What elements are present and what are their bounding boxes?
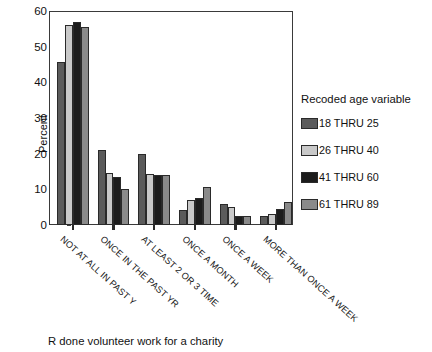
x-tick-mark [72, 225, 74, 230]
x-tick-mark [112, 225, 114, 230]
legend-item: 18 THRU 25 [301, 116, 429, 130]
legend-item: 61 THRU 89 [301, 197, 429, 211]
legend-swatch [301, 172, 318, 183]
legend-swatch [301, 199, 318, 210]
legend-label: 41 THRU 60 [319, 171, 379, 183]
legend-swatch [301, 145, 318, 156]
x-category-label: NOT AT ALL IN PAST Y [58, 234, 138, 307]
legend-label: 18 THRU 25 [319, 117, 379, 129]
x-tick-mark [275, 225, 277, 230]
x-category-label: ONCE IN THE PAST YR [99, 234, 181, 310]
x-category-label: AT LEAST 2 OR 3 TIME [139, 234, 220, 309]
legend-title: Recoded age variable [301, 93, 429, 105]
chart-canvas: Percent 0102030405060 NOT AT ALL IN PAST… [0, 0, 432, 352]
legend-label: 26 THRU 40 [319, 144, 379, 156]
x-tick-mark [153, 225, 155, 230]
legend-label: 61 THRU 89 [319, 198, 379, 210]
chart-caption: R done volunteer work for a charity [48, 335, 223, 347]
legend-item: 26 THRU 40 [301, 143, 429, 157]
legend-items: 18 THRU 2526 THRU 4041 THRU 6061 THRU 89 [301, 116, 429, 211]
legend: Recoded age variable 18 THRU 2526 THRU 4… [301, 93, 429, 224]
legend-swatch [301, 118, 318, 129]
x-tick-mark [194, 225, 196, 230]
x-category-label: MORE THAN ONCE A WEEK [261, 234, 359, 324]
legend-item: 41 THRU 60 [301, 170, 429, 184]
x-tick-mark [234, 225, 236, 230]
